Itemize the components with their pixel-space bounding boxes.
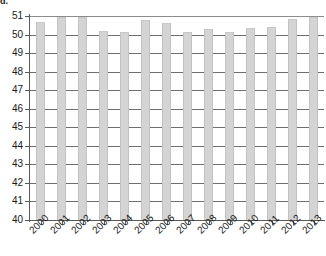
y-tick [25,183,30,184]
bar-2010 [246,28,255,220]
y-tick-label: 50 [2,29,23,40]
y-tick [25,146,30,147]
y-tick-label: 42 [2,177,23,188]
y-tick-label: 45 [2,121,23,132]
bar-2000 [36,22,45,220]
y-tick-label: 47 [2,84,23,95]
y-tick-label: 48 [2,66,23,77]
y-tick-label: 41 [2,195,23,206]
bar-2004 [120,32,129,220]
y-tick-label: 49 [2,47,23,58]
y-tick [25,16,30,17]
bar-2003 [99,31,108,220]
gridline [30,72,324,73]
plot-top-border [30,16,324,17]
bar-2005 [141,20,150,220]
y-tick [25,127,30,128]
gridline [30,127,324,128]
y-tick-label: 51 [2,10,23,21]
y-tick-label: 46 [2,103,23,114]
y-tick [25,35,30,36]
gridline [30,146,324,147]
y-tick [25,220,30,221]
y-tick-label: 43 [2,158,23,169]
figure-label: d. [0,0,14,6]
y-tick [25,90,30,91]
y-tick [25,53,30,54]
gridline [30,201,324,202]
gridline [30,109,324,110]
gridline [30,53,324,54]
bar-2011 [267,27,276,220]
bar-2008 [204,29,213,220]
bar-2001 [57,17,66,220]
y-tick [25,109,30,110]
bar-2012 [288,19,297,220]
bar-2002 [78,17,87,220]
gridline [30,90,324,91]
bar-2013 [309,17,318,220]
plot-area [30,16,324,220]
y-tick-label: 44 [2,140,23,151]
bar-2009 [225,32,234,220]
bar-2007 [183,32,192,220]
bar-2006 [162,23,171,220]
y-axis-line [29,14,30,222]
y-tick [25,201,30,202]
gridline [30,164,324,165]
y-tick [25,72,30,73]
figure-container: d. 515049484746454443424140 200020012002… [0,0,326,256]
gridline [30,35,324,36]
y-tick-label: 40 [2,214,23,225]
y-tick [25,164,30,165]
gridline [30,183,324,184]
